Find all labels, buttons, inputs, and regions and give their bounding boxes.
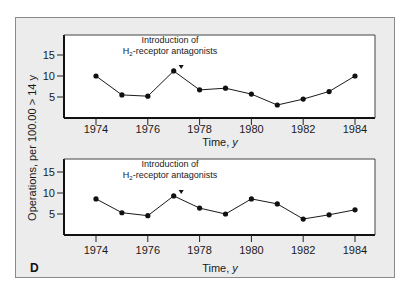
- data-point: [249, 91, 254, 96]
- plot-area: [64, 159, 375, 235]
- annotation-line-2: H2-receptor antagonists: [123, 46, 218, 57]
- plot-area: [64, 35, 375, 118]
- annotation-line-1: Introduction of: [141, 159, 199, 169]
- x-tick-label: 1978: [187, 244, 211, 256]
- data-point: [327, 212, 332, 217]
- data-point: [171, 193, 176, 198]
- x-tick-label: 1984: [343, 123, 367, 135]
- figure-svg: Operations, per 100.00 > 14 y 5101519741…: [0, 0, 409, 290]
- data-point: [275, 102, 280, 107]
- data-point: [352, 207, 357, 212]
- data-point: [327, 89, 332, 94]
- y-tick-label: 10: [43, 70, 55, 82]
- data-point: [93, 196, 98, 201]
- x-tick-label: 1980: [239, 244, 263, 256]
- annotation-line-2: H2-receptor antagonists: [123, 170, 218, 181]
- data-point: [223, 211, 228, 216]
- x-tick-label: 1980: [239, 123, 263, 135]
- y-tick-label: 5: [49, 208, 55, 220]
- y-tick-label: 15: [43, 49, 55, 61]
- x-tick-label: 1976: [136, 244, 160, 256]
- annotation-line-1: Introduction of: [141, 35, 199, 45]
- data-point: [275, 201, 280, 206]
- y-axis-title: Operations, per 100.00 > 14 y: [26, 75, 38, 221]
- data-point: [93, 73, 98, 78]
- x-tick-label: 1982: [291, 123, 315, 135]
- data-point: [171, 68, 176, 73]
- data-point: [352, 73, 357, 78]
- y-tick-label: 10: [43, 187, 55, 199]
- x-axis-title: Time, y: [202, 136, 239, 148]
- data-point: [119, 92, 124, 97]
- data-point: [301, 97, 306, 102]
- data-point: [301, 216, 306, 221]
- data-point: [223, 86, 228, 91]
- top-chart: 51015197419761978198019821984Time, yIntr…: [43, 35, 375, 148]
- data-point: [145, 94, 150, 99]
- panel-letter: D: [30, 261, 39, 275]
- x-tick-label: 1974: [84, 123, 108, 135]
- y-tick-label: 15: [43, 166, 55, 178]
- bottom-chart: 51015197419761978198019821984Time, yIntr…: [43, 159, 375, 274]
- x-tick-label: 1974: [84, 244, 108, 256]
- x-tick-label: 1976: [136, 123, 160, 135]
- data-point: [249, 196, 254, 201]
- y-tick-label: 5: [49, 91, 55, 103]
- x-tick-label: 1982: [291, 244, 315, 256]
- x-tick-label: 1978: [187, 123, 211, 135]
- data-point: [197, 206, 202, 211]
- data-point: [119, 210, 124, 215]
- data-point: [197, 87, 202, 92]
- x-tick-label: 1984: [343, 244, 367, 256]
- x-axis-title: Time, y: [202, 262, 239, 274]
- data-point: [145, 213, 150, 218]
